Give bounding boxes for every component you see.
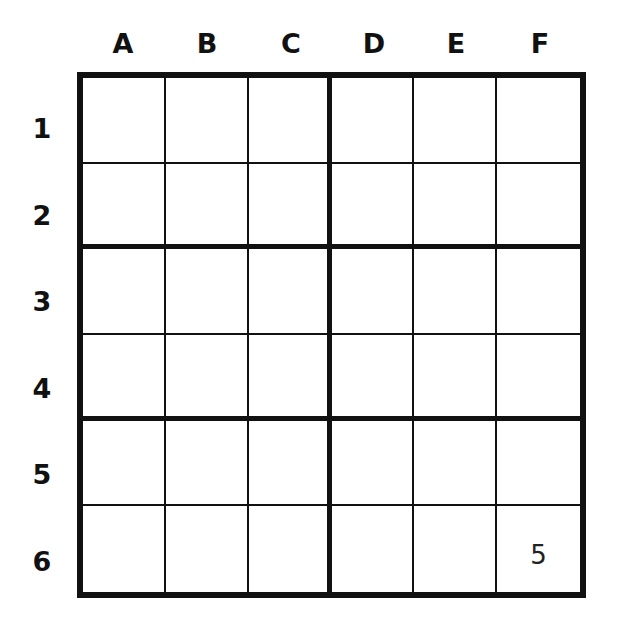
- cell-c6[interactable]: [249, 506, 332, 592]
- cell-b6[interactable]: [166, 506, 249, 592]
- column-label-e: E: [414, 26, 498, 62]
- cell-d3[interactable]: [332, 249, 415, 335]
- column-label-d: D: [332, 26, 416, 62]
- cell-a3[interactable]: [83, 249, 166, 335]
- column-label-c: C: [249, 26, 333, 62]
- cell-a5[interactable]: [83, 421, 166, 507]
- row-label-6: 6: [22, 519, 62, 605]
- column-label-a: A: [81, 26, 165, 62]
- cell-f1[interactable]: [497, 78, 580, 164]
- cell-b1[interactable]: [166, 78, 249, 164]
- column-label-f: F: [498, 26, 582, 62]
- cell-value: 5: [530, 540, 547, 570]
- cell-a4[interactable]: [83, 335, 166, 421]
- row-label-4: 4: [22, 346, 62, 432]
- sudoku-grid: 5: [77, 72, 586, 598]
- row-label-3: 3: [22, 259, 62, 345]
- cell-a2[interactable]: [83, 164, 166, 250]
- cell-e5[interactable]: [414, 421, 497, 507]
- cell-f6[interactable]: 5: [497, 506, 580, 592]
- row-label-1: 1: [22, 86, 62, 172]
- cell-b3[interactable]: [166, 249, 249, 335]
- cell-a6[interactable]: [83, 506, 166, 592]
- cell-d1[interactable]: [332, 78, 415, 164]
- cell-d5[interactable]: [332, 421, 415, 507]
- cell-e3[interactable]: [414, 249, 497, 335]
- cell-b5[interactable]: [166, 421, 249, 507]
- cell-d4[interactable]: [332, 335, 415, 421]
- cell-c4[interactable]: [249, 335, 332, 421]
- cell-f3[interactable]: [497, 249, 580, 335]
- cell-f5[interactable]: [497, 421, 580, 507]
- cell-c2[interactable]: [249, 164, 332, 250]
- row-label-5: 5: [22, 432, 62, 518]
- cell-b2[interactable]: [166, 164, 249, 250]
- cell-e4[interactable]: [414, 335, 497, 421]
- cell-b4[interactable]: [166, 335, 249, 421]
- column-label-b: B: [165, 26, 249, 62]
- cell-c5[interactable]: [249, 421, 332, 507]
- cell-e6[interactable]: [414, 506, 497, 592]
- cell-f4[interactable]: [497, 335, 580, 421]
- cell-e2[interactable]: [414, 164, 497, 250]
- cell-d2[interactable]: [332, 164, 415, 250]
- cell-c3[interactable]: [249, 249, 332, 335]
- cell-a1[interactable]: [83, 78, 166, 164]
- row-label-2: 2: [22, 173, 62, 259]
- cell-f2[interactable]: [497, 164, 580, 250]
- cell-c1[interactable]: [249, 78, 332, 164]
- cell-d6[interactable]: [332, 506, 415, 592]
- cell-e1[interactable]: [414, 78, 497, 164]
